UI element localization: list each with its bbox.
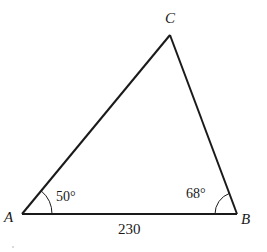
angle-arc-b [215,193,229,214]
side-label-ab: 230 [118,221,141,237]
angle-label-b: 68° [186,186,206,201]
stray-dot [12,246,13,247]
angle-label-a: 50° [56,189,76,204]
angle-arc-a [41,191,52,214]
triangle-diagram: C A B 50° 68° 230 [0,0,267,252]
vertex-label-b: B [241,211,250,227]
vertex-label-c: C [165,10,176,26]
side-ac [22,35,170,214]
vertex-label-a: A [3,209,14,225]
